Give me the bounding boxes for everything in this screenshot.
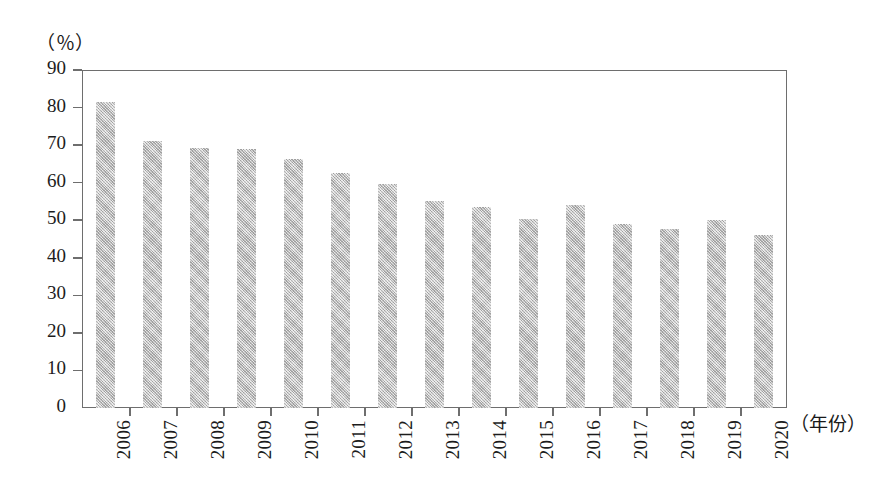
x-axis-tick-label: 2016 [584,420,603,459]
y-axis-tick-mark [73,107,82,109]
bar [143,141,162,408]
bar [190,148,209,408]
y-axis-tick-label: 20 [47,321,66,340]
y-axis-tick-label: 70 [47,133,66,152]
x-axis-tick-label: 2014 [490,420,509,459]
bar [660,229,679,409]
y-axis-tick-label: 30 [47,283,66,302]
x-axis-tick-label: 2012 [396,420,415,459]
x-axis-tick-label: 2006 [114,420,133,459]
y-axis-tick-label: 40 [47,246,66,265]
x-axis: 2006200720082009201020112012201320142015… [82,408,787,489]
y-axis-tick-mark [73,295,82,297]
bar-chart-figure: （％） 9080706050403020100 2006200720082009… [0,0,889,489]
bar [96,102,115,408]
x-axis-tick-label: 2015 [537,420,556,459]
y-axis-tick-label: 50 [47,208,66,227]
bar [707,220,726,408]
y-axis-tick-mark [73,257,82,259]
x-axis-unit-label: （年份） [790,415,866,435]
y-axis: 9080706050403020100 [0,0,82,489]
x-axis-tick-label: 2013 [443,420,462,459]
x-axis-tick-label: 2008 [208,420,227,459]
y-axis-tick-label: 90 [47,58,66,77]
x-axis-tick-label: 2020 [772,420,791,459]
bar [566,205,585,408]
bar [284,159,303,408]
x-axis-tick-label: 2009 [255,420,274,459]
bar [331,173,350,408]
bar [425,201,444,408]
y-axis-tick-mark [73,219,82,221]
y-axis-tick-label: 10 [47,358,66,377]
x-axis-tick-label: 2018 [678,420,697,459]
y-axis-tick-label: 0 [57,396,67,415]
bar [237,149,256,408]
bar [754,235,773,408]
y-axis-tick-mark [73,182,82,184]
bar [613,224,632,408]
x-axis-tick-label: 2017 [631,420,650,459]
y-axis-tick-mark [73,332,82,334]
y-axis-tick-mark [73,144,82,146]
bar [472,207,491,408]
x-axis-tick-label: 2007 [161,420,180,459]
bar [378,184,397,408]
x-axis-tick-label: 2011 [349,420,368,459]
y-axis-tick-label: 80 [47,96,66,115]
y-axis-tick-label: 60 [47,171,66,190]
y-axis-tick-mark [73,69,82,71]
y-axis-tick-mark [73,370,82,372]
x-axis-tick-label: 2019 [725,420,744,459]
bar-series [82,70,787,408]
bar [519,219,538,408]
x-axis-tick-label: 2010 [302,420,321,459]
